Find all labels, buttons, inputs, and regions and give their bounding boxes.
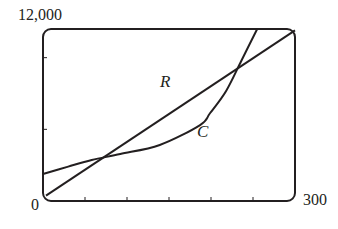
curve-label-C: C xyxy=(197,124,208,140)
series-R-line xyxy=(46,30,295,195)
chart-plot-area xyxy=(0,0,338,229)
x-axis-max-label: 300 xyxy=(303,192,327,208)
x-axis-min-label: 0 xyxy=(31,197,39,213)
series-C-curve xyxy=(43,29,257,174)
curve-label-R: R xyxy=(160,74,170,90)
y-axis-max-label: 12,000 xyxy=(18,7,62,23)
